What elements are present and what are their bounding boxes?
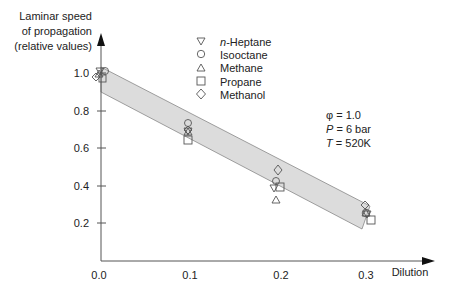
- square-icon: [197, 77, 205, 85]
- propane-marker: [367, 216, 375, 224]
- y-tick-0.2: 0.2: [74, 217, 89, 229]
- legend-label-isooctane: Isooctane: [220, 49, 268, 61]
- legend-label-propane: Propane: [220, 76, 262, 88]
- x-axis-title: Dilution: [392, 266, 429, 278]
- circle-icon: [197, 50, 204, 57]
- y-axis-title-line-3: (relative values): [14, 40, 92, 52]
- x-tick-0.2: 0.2: [273, 269, 288, 281]
- y-tick-0.4: 0.4: [74, 180, 89, 192]
- methane-marker: [272, 196, 280, 203]
- y-axis-title-line-2: of propagation: [22, 25, 92, 37]
- y-axis-title-line-1: Laminar speed: [19, 10, 92, 22]
- triangle-up-icon: [197, 64, 205, 71]
- x-tick-0.3: 0.3: [358, 269, 373, 281]
- y-axis-arrow-icon: [97, 33, 105, 46]
- annotation-phi: φ = 1.0: [326, 109, 361, 121]
- legend-label-n-heptane: n-Heptane: [220, 36, 271, 48]
- y-tick-0.6: 0.6: [74, 142, 89, 154]
- y-tick-0.8: 0.8: [74, 105, 89, 117]
- legend-label-methanol: Methanol: [220, 89, 265, 101]
- x-tick-0.0: 0.0: [91, 269, 106, 281]
- triangle-down-icon: [197, 38, 205, 45]
- annotation-temperature: T = 520K: [326, 137, 372, 149]
- x-axis-arrow-icon: [422, 257, 435, 265]
- legend-label-methane: Methane: [220, 62, 263, 74]
- chart: 1.0 0.8 0.6 0.4 0.2 0.0 0.1 0.2 0.3 Lami…: [0, 0, 452, 295]
- diamond-icon: [197, 89, 206, 99]
- x-tick-0.1: 0.1: [182, 269, 197, 281]
- legend: [197, 38, 206, 99]
- annotation-pressure: P = 6 bar: [326, 123, 371, 135]
- y-tick-1.0: 1.0: [74, 67, 89, 79]
